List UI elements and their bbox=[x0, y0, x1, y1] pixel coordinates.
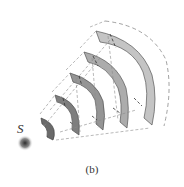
wavefront-figure bbox=[0, 0, 184, 187]
point-source bbox=[17, 135, 33, 151]
figure-caption: (b) bbox=[0, 163, 184, 175]
wavefront-3 bbox=[55, 95, 79, 135]
dashed-construction-lines bbox=[40, 21, 150, 140]
source-label: S bbox=[17, 121, 24, 137]
